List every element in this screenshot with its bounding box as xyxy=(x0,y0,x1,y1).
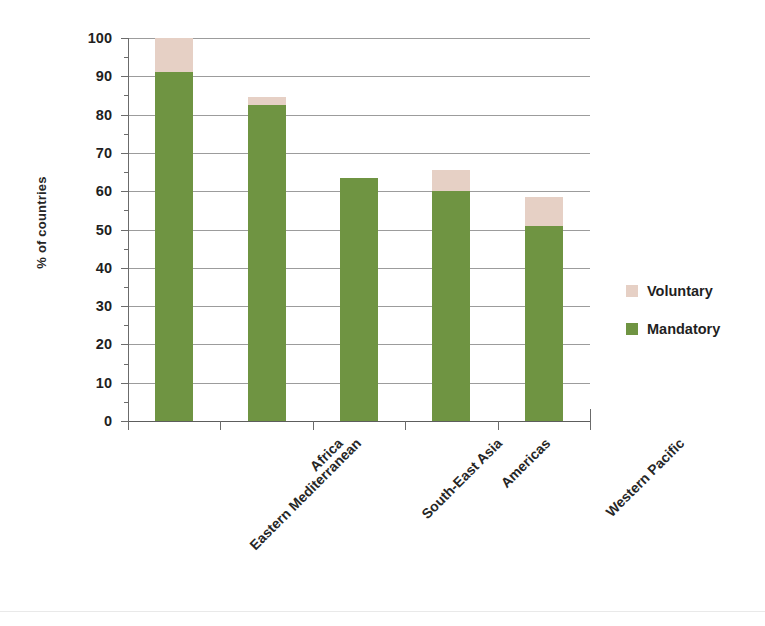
legend-item-mandatory[interactable]: Mandatory xyxy=(626,321,761,337)
plot-area xyxy=(128,38,590,421)
y-tick-60 xyxy=(121,191,128,192)
y-tick-label-90: 90 xyxy=(50,68,112,84)
bar-segment-mandatory[interactable] xyxy=(248,105,286,421)
y-tick-0 xyxy=(121,421,128,422)
y-tick-label-50: 50 xyxy=(50,222,112,238)
y-tick-label-20: 20 xyxy=(50,336,112,352)
legend-swatch-mandatory xyxy=(626,323,638,335)
bar-segment-voluntary[interactable] xyxy=(525,197,563,226)
gridline-0 xyxy=(128,421,590,422)
bar-segment-mandatory[interactable] xyxy=(525,226,563,421)
x-tick xyxy=(220,421,221,430)
y-tick-label-100: 100 xyxy=(50,30,112,46)
y-tick-30 xyxy=(121,306,128,307)
bar-segment-mandatory[interactable] xyxy=(155,72,193,421)
x-tick xyxy=(313,421,314,430)
x-axis-label: Western Pacific xyxy=(602,435,687,520)
x-tick xyxy=(405,421,406,430)
y-tick-10 xyxy=(121,383,128,384)
y-axis-title: % of countries xyxy=(34,163,49,283)
bar-chart: % of countries 1009080706050403020100 Ea… xyxy=(0,0,765,626)
y-tick-label-10: 10 xyxy=(50,375,112,391)
x-axis-label: South-East Asia xyxy=(418,435,505,522)
y-tick-90 xyxy=(121,76,128,77)
y-tick-80 xyxy=(121,115,128,116)
y-tick-100 xyxy=(121,38,128,39)
legend-label-mandatory: Mandatory xyxy=(647,321,720,337)
scan-artifact-line xyxy=(0,611,765,612)
bar-segment-mandatory[interactable] xyxy=(340,178,378,421)
x-axis-label: Eastern Mediterranean xyxy=(246,435,364,553)
x-tick xyxy=(498,421,499,430)
y-tick-label-40: 40 xyxy=(50,260,112,276)
y-tick-label-60: 60 xyxy=(50,183,112,199)
y-tick-label-30: 30 xyxy=(50,298,112,314)
y-tick-70 xyxy=(121,153,128,154)
y-axis-line xyxy=(128,38,129,421)
x-axis-label: Americas xyxy=(498,435,554,491)
legend-item-voluntary[interactable]: Voluntary xyxy=(626,283,761,299)
bar-group[interactable] xyxy=(155,38,193,421)
bar-group[interactable] xyxy=(525,38,563,421)
bar-segment-voluntary[interactable] xyxy=(432,170,470,191)
legend-label-voluntary: Voluntary xyxy=(647,283,713,299)
y-tick-40 xyxy=(121,268,128,269)
y-tick-label-80: 80 xyxy=(50,107,112,123)
bar-segment-voluntary[interactable] xyxy=(248,97,286,105)
y-tick-20 xyxy=(121,344,128,345)
x-tick xyxy=(590,421,591,430)
legend: Voluntary Mandatory xyxy=(626,283,761,359)
x-axis-right-cap xyxy=(590,409,591,421)
bar-group[interactable] xyxy=(432,38,470,421)
bar-segment-mandatory[interactable] xyxy=(432,191,470,421)
legend-swatch-voluntary xyxy=(626,285,638,297)
y-tick-label-0: 0 xyxy=(50,413,112,429)
y-tick-label-70: 70 xyxy=(50,145,112,161)
bar-segment-voluntary[interactable] xyxy=(155,38,193,72)
y-tick-50 xyxy=(121,230,128,231)
bar-group[interactable] xyxy=(248,38,286,421)
x-tick xyxy=(128,421,129,430)
bar-group[interactable] xyxy=(340,38,378,421)
